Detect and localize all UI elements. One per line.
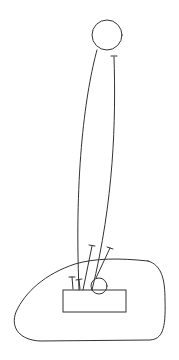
diagram-canvas — [0, 0, 179, 360]
left-long-curve — [78, 50, 97, 290]
line-drawing — [0, 0, 179, 360]
right-long-curve — [92, 57, 115, 290]
rectangle — [63, 290, 126, 312]
outer-blob — [14, 259, 165, 341]
top-circle — [92, 20, 122, 50]
